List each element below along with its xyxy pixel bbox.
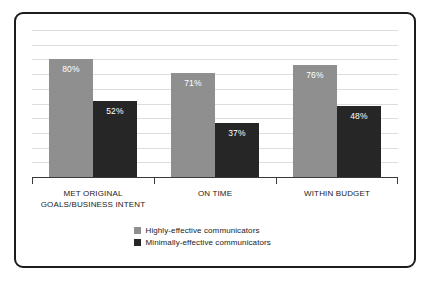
axis-tick bbox=[276, 177, 277, 184]
bar-0-0[interactable]: 80% bbox=[49, 59, 93, 177]
category-label-0: MET ORIGINALGOALS/BUSINESS INTENT bbox=[32, 188, 154, 210]
bar-group: 80%52% bbox=[49, 30, 137, 177]
bar-value-label: 76% bbox=[293, 70, 337, 80]
bar-value-label: 71% bbox=[171, 78, 215, 88]
plot-area: 80%52%71%37%76%48% bbox=[32, 30, 398, 177]
bar-value-label: 37% bbox=[215, 128, 259, 138]
category-label-2: WITHIN BUDGET bbox=[276, 188, 398, 199]
category-label-line: MET ORIGINAL bbox=[64, 189, 123, 198]
legend-swatch-icon bbox=[134, 239, 141, 246]
bar-0-2[interactable]: 76% bbox=[293, 65, 337, 177]
bar-1-1[interactable]: 37% bbox=[215, 123, 259, 177]
chart-frame: 80%52%71%37%76%48% MET ORIGINALGOALS/BUS… bbox=[14, 12, 416, 268]
category-label-line: GOALS/BUSINESS INTENT bbox=[32, 199, 154, 210]
chart-legend: Highly-effective communicatorsMinimally-… bbox=[16, 226, 414, 247]
x-axis-line bbox=[32, 177, 398, 178]
legend-item-1[interactable]: Minimally-effective communicators bbox=[134, 238, 297, 247]
category-label-1: ON TIME bbox=[154, 188, 276, 199]
axis-tick bbox=[32, 177, 33, 184]
axis-tick bbox=[397, 177, 398, 184]
legend-item-0[interactable]: Highly-effective communicators bbox=[134, 226, 297, 235]
bar-value-label: 80% bbox=[49, 64, 93, 74]
category-label-line: WITHIN BUDGET bbox=[304, 189, 370, 198]
category-axis-labels: MET ORIGINALGOALS/BUSINESS INTENTON TIME… bbox=[32, 188, 398, 222]
bar-group: 76%48% bbox=[293, 30, 381, 177]
bars-layer: 80%52%71%37%76%48% bbox=[32, 30, 398, 177]
bar-1-2[interactable]: 48% bbox=[337, 106, 381, 177]
bar-value-label: 48% bbox=[337, 111, 381, 121]
legend-label: Highly-effective communicators bbox=[146, 226, 260, 235]
bar-value-label: 52% bbox=[93, 106, 137, 116]
legend-swatch-icon bbox=[134, 227, 141, 234]
bar-0-1[interactable]: 71% bbox=[171, 73, 215, 177]
bar-1-0[interactable]: 52% bbox=[93, 101, 137, 177]
x-axis bbox=[32, 177, 398, 184]
category-label-line: ON TIME bbox=[198, 189, 232, 198]
bar-group: 71%37% bbox=[171, 30, 259, 177]
legend-label: Minimally-effective communicators bbox=[146, 238, 271, 247]
axis-tick bbox=[154, 177, 155, 184]
